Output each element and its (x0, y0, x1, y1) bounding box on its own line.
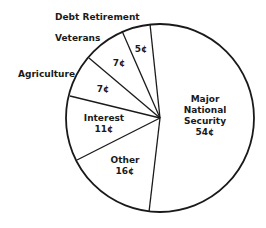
other-value: 16¢ (111, 166, 140, 177)
value-debt-retirement: 5¢ (135, 44, 148, 55)
label-interest: Interest 11¢ (84, 113, 124, 135)
label-other: Other 16¢ (111, 155, 140, 177)
label-agriculture: Agriculture (18, 69, 75, 80)
label-veterans: Veterans (55, 33, 100, 44)
interest-name: Interest (84, 113, 124, 124)
major-line1: Major (184, 94, 227, 105)
value-veterans: 7¢ (113, 58, 126, 69)
other-name: Other (111, 155, 140, 166)
major-value: 54¢ (184, 127, 227, 138)
label-major-national-security: Major National Security 54¢ (184, 94, 227, 138)
major-line3: Security (184, 116, 227, 127)
value-agriculture: 7¢ (97, 84, 110, 95)
major-line2: National (184, 105, 227, 116)
label-debt-retirement: Debt Retirement (55, 12, 140, 23)
interest-value: 11¢ (84, 124, 124, 135)
